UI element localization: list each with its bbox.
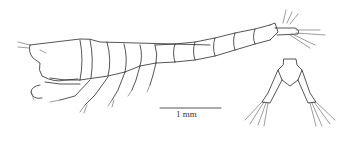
caudal-furca-dorsal bbox=[245, 59, 335, 126]
appendages bbox=[31, 63, 156, 113]
specimen-drawing bbox=[0, 0, 363, 146]
abdomen bbox=[155, 23, 278, 62]
caudal-rami-lateral bbox=[275, 10, 325, 48]
cephalothorax bbox=[18, 39, 210, 81]
scale-bar-label: 1 mm bbox=[176, 109, 197, 119]
scientific-illustration: 1 mm bbox=[0, 0, 363, 146]
